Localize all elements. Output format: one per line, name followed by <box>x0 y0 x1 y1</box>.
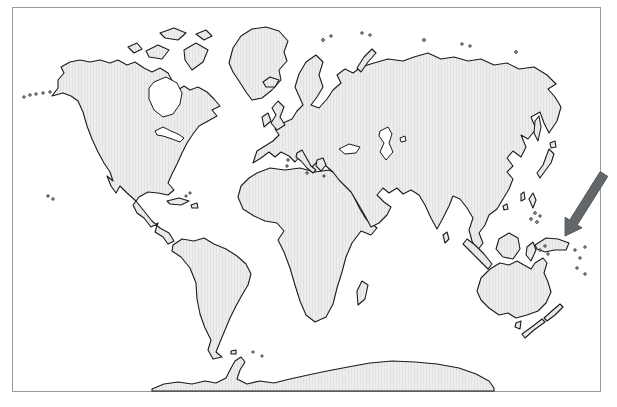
island-dot <box>361 32 363 34</box>
taiwan-island <box>521 192 525 201</box>
world-map-canvas <box>0 0 617 407</box>
borneo-island <box>496 233 520 259</box>
island-dot <box>23 96 25 98</box>
hispaniola-island <box>191 203 198 208</box>
world-map-figure <box>0 0 617 407</box>
greenland-landmass <box>229 27 288 100</box>
island-dot <box>330 35 332 37</box>
island-dot <box>261 355 263 357</box>
sakhalin-island <box>534 116 541 141</box>
island-dot <box>469 45 471 47</box>
island-dot <box>189 192 191 194</box>
island-dot <box>49 91 51 93</box>
island-dot <box>539 215 541 217</box>
island-dot <box>515 51 518 54</box>
island-dot <box>547 253 549 255</box>
island-dot <box>185 195 187 197</box>
japan-islands <box>537 149 554 178</box>
arctic-islands-group <box>128 28 212 70</box>
island-dot <box>584 273 586 275</box>
island-dot <box>576 267 578 269</box>
arctic-island <box>128 43 142 53</box>
arctic-island <box>184 43 208 70</box>
island-dot <box>306 172 308 174</box>
hokkaido-island <box>550 141 556 148</box>
landmasses-group <box>52 27 569 391</box>
arctic-island <box>196 30 212 40</box>
island-dot <box>574 249 576 251</box>
island-dot <box>29 94 31 96</box>
antarctica-landmass <box>152 357 494 391</box>
arctic-island <box>160 28 186 40</box>
island-dot <box>539 249 541 251</box>
ireland-island <box>262 113 271 127</box>
tasmania-island <box>515 321 521 329</box>
cuba-island <box>167 198 189 205</box>
island-dot <box>579 257 581 259</box>
island-dot <box>287 159 289 161</box>
island-dot <box>423 39 426 42</box>
island-dot <box>322 39 325 42</box>
island-dot <box>536 221 539 224</box>
island-dot <box>252 351 254 353</box>
island-dot <box>286 165 288 167</box>
madagascar-landmass <box>357 281 368 305</box>
hainan-island <box>503 204 508 210</box>
south-america-landmass <box>172 238 251 359</box>
island-dot <box>534 212 537 215</box>
sri-lanka-island <box>443 232 449 243</box>
island-dot <box>530 218 533 221</box>
island-dot <box>584 246 586 248</box>
north-america-landmass <box>52 60 220 244</box>
highlight-arrow-new-guinea <box>565 172 608 236</box>
island-dot <box>461 43 463 45</box>
island-dot <box>47 195 49 197</box>
island-dot <box>35 93 37 95</box>
new-zealand-north-island <box>544 304 563 321</box>
great-britain-island <box>271 101 285 130</box>
new-zealand-south-island <box>522 319 545 338</box>
island-dot <box>369 34 371 36</box>
island-dot <box>323 175 325 177</box>
falkland-islands <box>231 350 236 354</box>
island-dot <box>42 92 44 94</box>
island-dot <box>52 198 54 200</box>
island-dot <box>544 245 546 247</box>
arctic-island <box>146 45 169 59</box>
philippines-luzon <box>529 193 536 208</box>
